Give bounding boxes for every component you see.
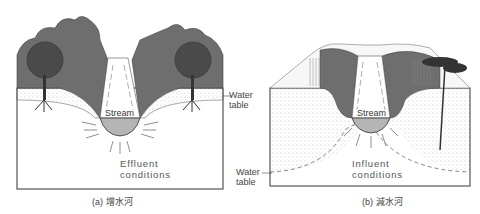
condition-label-line2: conditions	[352, 169, 403, 180]
condition-label-line2: conditions	[120, 169, 171, 180]
stream-label: Stream	[357, 108, 386, 118]
panel-losing-stream: Stream Influent conditions Water table (…	[240, 0, 480, 214]
gaining-stream-cross-section	[0, 0, 240, 214]
condition-label-line1: Influent	[352, 158, 390, 169]
caption-a: (a) 增水河	[92, 195, 133, 208]
stream-label: Stream	[105, 108, 134, 118]
water-table-label-line2: table	[236, 177, 256, 187]
condition-label-line1: Effluent	[120, 158, 158, 169]
losing-stream-cross-section	[240, 0, 480, 214]
panel-gaining-stream: Stream Effluent conditions Water table (…	[0, 0, 240, 214]
water-table-label-line1: Water	[236, 167, 260, 177]
caption-b: (b) 減水河	[362, 195, 403, 208]
